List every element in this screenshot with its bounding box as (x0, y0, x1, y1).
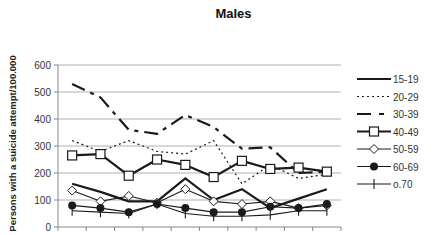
square-marker (181, 160, 190, 169)
square-marker (153, 155, 162, 164)
legend-item: o.70 (357, 179, 413, 190)
square-marker (237, 156, 246, 165)
y-tick-label: 400 (34, 114, 51, 125)
legend-item: 15-19 (357, 74, 419, 85)
diamond-marker (124, 191, 133, 200)
legend-label: 30-39 (393, 109, 419, 120)
series-30-39 (72, 84, 327, 173)
square-marker (370, 127, 379, 136)
legend-item: 60-69 (357, 162, 419, 173)
legend-label: 50-59 (393, 144, 419, 155)
circle-marker (370, 163, 378, 171)
legend-label: 40-49 (393, 127, 419, 138)
y-axis-label: Persons with a suicide attempt/100.000 (7, 54, 18, 234)
series-line (72, 84, 327, 173)
series-15-19 (72, 178, 327, 208)
series-40-49 (68, 150, 332, 182)
legend-label: 60-69 (393, 162, 419, 173)
y-tick-label: 600 (34, 60, 51, 71)
square-marker (209, 173, 218, 182)
y-tick-label: 300 (34, 141, 51, 152)
y-tick-label: 500 (34, 87, 51, 98)
diamond-marker (370, 145, 379, 154)
legend-label: 20-29 (393, 92, 419, 103)
series-line (72, 178, 327, 208)
chart-title: Males (0, 6, 437, 21)
square-marker (68, 151, 77, 160)
line-chart: Males Persons with a suicide attempt/100… (0, 0, 437, 235)
circle-marker (266, 203, 274, 211)
plot-area: 0100200300400500600198919901991199219931… (0, 0, 437, 235)
diamond-marker (181, 185, 190, 194)
diamond-marker (237, 200, 246, 209)
legend-item: 40-49 (357, 127, 419, 138)
series-line (72, 189, 327, 208)
y-tick-label: 200 (34, 168, 51, 179)
legend-item: 30-39 (357, 109, 419, 120)
legend-item: 50-59 (357, 144, 419, 155)
legend-label: 15-19 (393, 74, 419, 85)
square-marker (266, 164, 275, 173)
diamond-marker (68, 186, 77, 195)
y-tick-label: 0 (45, 222, 51, 233)
series-60-69 (68, 200, 331, 216)
square-marker (96, 150, 105, 159)
y-tick-label: 100 (34, 195, 51, 206)
square-marker (124, 171, 133, 180)
legend-item: 20-29 (357, 92, 419, 103)
square-marker (322, 167, 331, 176)
square-marker (294, 163, 303, 172)
legend-label: o.70 (393, 179, 413, 190)
